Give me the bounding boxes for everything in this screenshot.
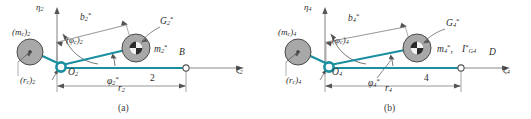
g2-leader [141, 27, 160, 42]
phi-star-4-label: φ4* [368, 78, 380, 89]
pivot-o2 [56, 62, 65, 71]
counterweight-radius-4-label: (rc)4 [286, 76, 301, 86]
g4-leader [423, 29, 445, 43]
panel-a-caption: (a) [118, 103, 129, 113]
point-d [458, 65, 464, 71]
panel-a-graphics [0, 0, 265, 119]
xi4-axis-label: ξ4 [503, 66, 510, 76]
cg4-label: G4* [446, 18, 459, 29]
point-d-label: D [489, 48, 496, 58]
r4-dimension [325, 68, 461, 92]
link-2-number: 2 [150, 74, 155, 84]
cg2-label: G2* [160, 16, 173, 27]
phi-star-2-arc [111, 54, 117, 67]
inertia4-label: I*G4 [462, 44, 476, 55]
point-b-label: B [179, 48, 185, 58]
xi2-axis-label: ξ2 [236, 66, 243, 76]
phi-c-4-label: (φc)4 [332, 36, 349, 46]
mass-disk-4 [403, 34, 431, 62]
b2-dimension-label: b2* [80, 12, 91, 23]
mass2-label: m2* [154, 44, 167, 55]
link-4-to-cg [330, 48, 415, 65]
b4-dimension-label: b4* [348, 13, 359, 24]
r4-dimension-label: r4 [385, 84, 392, 94]
panel-b-caption: (b) [384, 103, 395, 113]
point-b [183, 65, 189, 71]
r2-dimension-label: r2 [118, 84, 125, 94]
phi-star-4-arc [377, 55, 395, 79]
counterweight-radius-2-label: (rc)2 [20, 76, 35, 86]
eta2-axis-label: η2 [36, 3, 43, 13]
counterweight-mass-4-label: (mc)4 [278, 28, 296, 38]
pivot-o2-label: O2 [68, 68, 78, 78]
mass-disk-2 [122, 34, 150, 62]
panel-b-graphics [265, 0, 531, 119]
balancing-diagram-figure: η2 ξ2 (mc)2 (rc)2 b2* G2* m2* (φc)2 φ2* … [0, 0, 531, 119]
phi-c-2-label: (φc)2 [66, 36, 83, 46]
pivot-o4-label: O4 [332, 68, 342, 78]
eta4-axis-label: η4 [304, 3, 311, 13]
counterweight-mass-2-label: (mc)2 [12, 28, 30, 38]
link-4-number: 4 [424, 74, 429, 84]
eta4-axis [322, 7, 327, 68]
mass4-label: m4*, [437, 44, 453, 55]
